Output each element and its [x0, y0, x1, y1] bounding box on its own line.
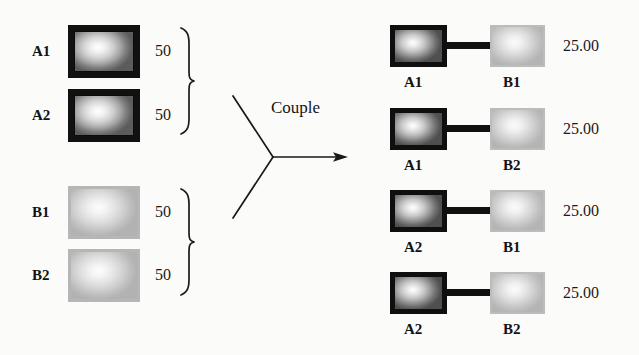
input-chip-a1	[68, 25, 140, 78]
output-value-pair4: 25.00	[563, 285, 599, 301]
couple-arrow-upper-branch	[233, 96, 273, 157]
output-chip-b2-pair2	[490, 108, 545, 150]
output-chip-b1-pair3	[490, 190, 545, 232]
output-value-pair2: 25.00	[563, 121, 599, 137]
output-chip-b1-pair1	[490, 25, 545, 67]
input-chip-a2	[68, 89, 140, 142]
pair-connector-4	[444, 289, 494, 296]
output-chip-a2-pair3	[390, 190, 447, 232]
coupling-diagram: A1 50 A2 50 B1 50 B2 50 Couple A1 B1 25.…	[0, 0, 639, 355]
output-label-left-pair3: A2	[404, 240, 422, 255]
input-chip-b2	[68, 249, 140, 302]
output-chip-a2-pair4	[390, 272, 447, 314]
output-label-right-pair3: B1	[503, 240, 521, 255]
input-value-b2: 50	[155, 267, 171, 283]
pair-connector-3	[444, 207, 494, 214]
operation-label: Couple	[271, 99, 320, 116]
input-value-a1: 50	[155, 43, 171, 59]
output-value-pair3: 25.00	[563, 203, 599, 219]
group-brace-a	[181, 28, 194, 134]
output-label-right-pair2: B2	[503, 158, 521, 173]
input-label-b1: B1	[32, 205, 50, 220]
output-label-left-pair4: A2	[404, 322, 422, 337]
output-chip-b2-pair4	[490, 272, 545, 314]
output-chip-a1-pair1	[390, 25, 447, 67]
group-brace-b	[181, 189, 194, 295]
input-value-a2: 50	[155, 107, 171, 123]
output-label-right-pair1: B1	[503, 75, 521, 90]
output-value-pair1: 25.00	[563, 38, 599, 54]
pair-connector-1	[444, 42, 494, 49]
pair-connector-2	[444, 125, 494, 132]
input-value-b1: 50	[155, 204, 171, 220]
output-label-left-pair1: A1	[404, 75, 422, 90]
input-chip-b1	[68, 186, 140, 239]
couple-arrow-head	[333, 152, 348, 162]
input-label-b2: B2	[32, 268, 50, 283]
input-label-a2: A2	[32, 108, 50, 123]
input-label-a1: A1	[32, 44, 50, 59]
output-label-right-pair4: B2	[503, 322, 521, 337]
output-label-left-pair2: A1	[404, 158, 422, 173]
couple-arrow-lower-branch	[233, 157, 273, 218]
output-chip-a1-pair2	[390, 108, 447, 150]
